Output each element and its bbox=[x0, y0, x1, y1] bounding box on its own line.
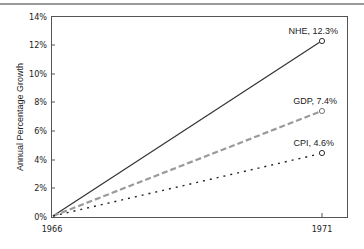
label-nhe: NHE, 12.3% bbox=[288, 26, 338, 36]
x-tick-label-1971: 1971 bbox=[312, 224, 333, 234]
y-axis-title: Annual Percentage Growth bbox=[15, 63, 25, 171]
label-cpi: CPI, 4.6% bbox=[293, 138, 334, 148]
series-line-cpi bbox=[53, 154, 319, 216]
series-line-nhe bbox=[53, 42, 320, 216]
y-tick-14: 14% bbox=[29, 12, 47, 22]
y-tick-2: 2% bbox=[34, 183, 47, 193]
y-tick-labels: 0% 2% 4% 6% 8% 10% 12% 14% bbox=[29, 12, 47, 222]
y-tick-10: 10% bbox=[29, 69, 47, 79]
y-tick-4: 4% bbox=[34, 155, 47, 165]
line-chart: 0% 2% 4% 6% 8% 10% 12% 14% 1966 1971 Ann… bbox=[0, 0, 364, 249]
y-tick-8: 8% bbox=[34, 97, 47, 107]
y-tick-6: 6% bbox=[34, 126, 47, 136]
x-tick-1966: 1966 bbox=[42, 224, 63, 234]
y-tick-0: 0% bbox=[34, 212, 47, 222]
marker-cpi-1971 bbox=[319, 150, 324, 155]
marker-nhe-1971 bbox=[319, 38, 324, 43]
marker-gdp-1971 bbox=[319, 108, 324, 113]
y-tick-12: 12% bbox=[29, 40, 47, 50]
label-gdp: GDP, 7.4% bbox=[293, 96, 337, 106]
